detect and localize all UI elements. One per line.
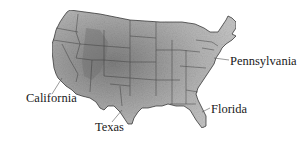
label-texas: Texas bbox=[95, 121, 124, 134]
us-landmass bbox=[52, 10, 236, 128]
us-relief-map bbox=[0, 0, 306, 145]
pennsylvania-leader bbox=[214, 58, 229, 60]
label-florida: Florida bbox=[211, 103, 247, 116]
label-california: California bbox=[26, 92, 77, 105]
label-pennsylvania: Pennsylvania bbox=[230, 55, 297, 68]
